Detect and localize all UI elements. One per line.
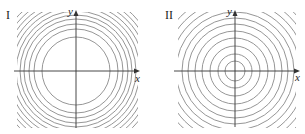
y-axis-arrow-icon: [233, 10, 238, 16]
panel-label-II: II: [165, 8, 173, 22]
y-axis-label-II: y: [226, 5, 232, 17]
contour-lines-II: [152, 0, 305, 134]
y-axis-arrow-icon: [74, 10, 79, 16]
contour-figure: I y x II y x: [0, 0, 305, 134]
y-axis-label-I: y: [67, 5, 73, 17]
contour-plot-II: II y x: [152, 0, 305, 134]
panel-label-I: I: [6, 8, 10, 22]
contour-plot-I: I y x: [0, 0, 156, 134]
contour-circle: [158, 0, 305, 134]
x-axis-label-I: x: [134, 72, 140, 84]
contour-lines-I: [0, 0, 156, 134]
axes-II: [174, 10, 300, 127]
x-axis-label-II: x: [294, 71, 300, 83]
